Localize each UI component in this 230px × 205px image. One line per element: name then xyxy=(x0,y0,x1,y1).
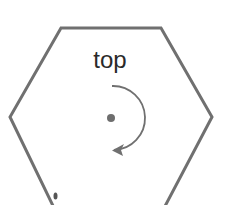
hexagon-diagram: top xyxy=(0,0,230,205)
rotation-arc xyxy=(112,86,145,150)
center-dot xyxy=(107,114,115,122)
top-label: top xyxy=(93,46,126,73)
rotation-arrowhead-icon xyxy=(112,144,124,156)
edge-marker xyxy=(54,193,58,200)
